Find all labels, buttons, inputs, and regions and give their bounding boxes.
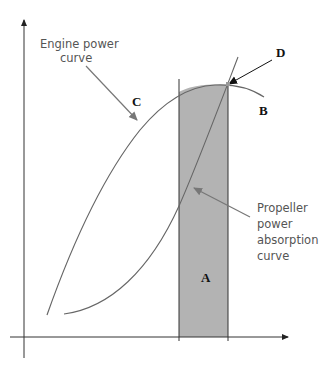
propeller-curve-label: Propeller power absorption curve xyxy=(257,201,322,263)
label-b: B xyxy=(259,103,268,118)
engine-power-curve xyxy=(47,85,264,315)
engine-propeller-diagram: Engine power curve Propeller power absor… xyxy=(0,0,328,368)
intersection-point-d xyxy=(226,82,230,86)
shaded-band xyxy=(179,79,228,341)
label-c: C xyxy=(132,94,141,109)
label-d: D xyxy=(276,45,285,60)
engine-curve-label: Engine power curve xyxy=(40,37,122,65)
engine-curve-leader-arrow xyxy=(86,66,137,120)
label-a: A xyxy=(201,270,211,285)
